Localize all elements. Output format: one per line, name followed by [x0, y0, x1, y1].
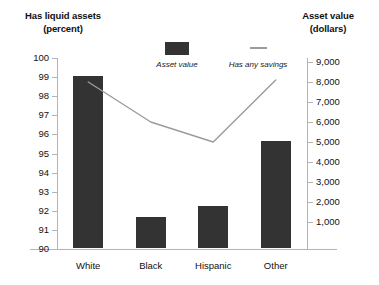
- right-axis-tick-label: 6,000: [316, 117, 340, 127]
- left-axis-tick-label: 90: [19, 244, 49, 254]
- x-axis-label-other: Other: [236, 260, 316, 271]
- left-axis-tick-mark: [52, 249, 57, 250]
- right-axis-tick-label: 7,000: [316, 97, 340, 107]
- left-axis-title-line2: (percent): [4, 23, 122, 36]
- right-axis-tick-label: 4,000: [316, 157, 340, 167]
- left-axis-tick-label: 99: [19, 72, 49, 82]
- filled-square-icon: [165, 42, 189, 55]
- right-axis-title: Asset value (dollars): [281, 10, 375, 35]
- right-axis-tick-mark: [308, 102, 313, 103]
- x-axis-line: [30, 249, 337, 250]
- right-axis-tick-mark: [308, 82, 313, 83]
- legend-swatch-wrap: [146, 40, 208, 56]
- bar-hispanic: [198, 206, 228, 248]
- left-axis-tick-label: 100: [19, 53, 49, 63]
- right-axis-title-line2: (dollars): [281, 23, 375, 36]
- right-axis-tick-mark: [308, 202, 313, 203]
- right-axis-tick-label: 8,000: [316, 77, 340, 87]
- left-axis-tick-label: 97: [19, 110, 49, 120]
- right-axis-tick-mark: [308, 182, 313, 183]
- left-axis-tick-label: 94: [19, 168, 49, 178]
- right-axis-tick-label: 1,000: [316, 217, 340, 227]
- right-axis-tick-label: 2,000: [316, 197, 340, 207]
- bar-black: [136, 217, 166, 248]
- left-axis-tick-label: 93: [19, 187, 49, 197]
- left-axis-tick-label: 96: [19, 129, 49, 139]
- left-axis-tick-label: 92: [19, 206, 49, 216]
- right-axis-tick-label: 3,000: [316, 177, 340, 187]
- right-axis-tick-mark: [308, 62, 313, 63]
- chart-container: Has liquid assets (percent) Asset value …: [0, 0, 379, 285]
- plot-area: [57, 58, 307, 248]
- right-axis-tick-mark: [308, 122, 313, 123]
- left-axis-title: Has liquid assets (percent): [4, 10, 122, 35]
- legend-swatch-wrap: [215, 40, 301, 56]
- right-axis-tick-mark: [308, 142, 313, 143]
- bar-white: [73, 76, 103, 248]
- right-axis-tick-label: 5,000: [316, 137, 340, 147]
- right-axis-tick-mark: [308, 222, 313, 223]
- left-axis-tick-label: 98: [19, 91, 49, 101]
- horizontal-line-icon: [250, 47, 267, 49]
- right-axis-title-line1: Asset value: [302, 10, 354, 21]
- left-axis-title-line1: Has liquid assets: [25, 10, 101, 21]
- right-axis-tick-label: 9,000: [316, 57, 340, 67]
- left-axis-tick-label: 91: [19, 225, 49, 235]
- left-axis-tick-label: 95: [19, 149, 49, 159]
- bar-other: [261, 141, 291, 248]
- right-axis-tick-mark: [308, 162, 313, 163]
